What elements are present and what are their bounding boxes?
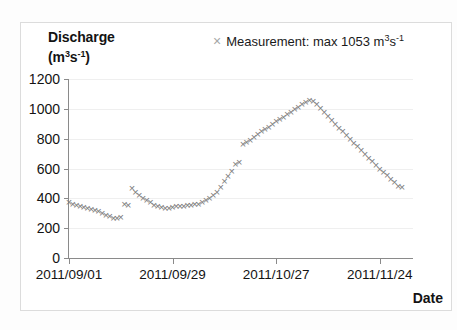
data-point [142, 196, 151, 205]
chart-legend: × Measurement: max 1053 m3s-1 [213, 33, 404, 49]
data-point [172, 202, 181, 211]
data-point [253, 130, 262, 139]
measurement-series [69, 79, 413, 258]
y-axis-unit: (m3s-1) [48, 46, 115, 66]
y-unit-mid: s [70, 49, 78, 65]
data-point [164, 204, 173, 213]
data-point [249, 133, 258, 142]
data-point [216, 183, 225, 192]
data-point [383, 171, 392, 180]
data-point [338, 127, 347, 136]
data-point [168, 203, 177, 212]
data-point [94, 207, 103, 216]
data-point [394, 182, 403, 191]
data-point [150, 201, 159, 210]
data-point [175, 202, 184, 211]
data-point [146, 198, 155, 207]
data-point [116, 213, 125, 222]
data-point [257, 127, 266, 136]
y-axis-tick [64, 109, 69, 110]
x-axis-label: 2011/10/27 [243, 267, 310, 282]
data-point [279, 113, 288, 122]
data-point [286, 108, 295, 117]
y-axis-label: 600 [37, 161, 60, 177]
data-point [327, 116, 336, 125]
chart-figure: Discharge (m3s-1) × Measurement: max 105… [20, 22, 452, 311]
data-point [305, 96, 314, 105]
y-axis-label: 1000 [29, 101, 60, 117]
data-point [209, 191, 218, 200]
y-axis-tick [64, 169, 69, 170]
data-point [183, 201, 192, 210]
data-point [90, 206, 99, 215]
data-point [76, 202, 85, 211]
data-point [79, 203, 88, 212]
data-point [275, 115, 284, 124]
data-point [135, 191, 144, 200]
x-axis-label: 2011/09/29 [139, 267, 206, 282]
x-axis-tick [173, 258, 174, 264]
data-point [312, 100, 321, 109]
data-point [87, 205, 96, 214]
data-point [390, 178, 399, 187]
data-point [161, 204, 170, 213]
y-axis-title: Discharge (m3s-1) [48, 29, 115, 66]
data-point [364, 154, 373, 163]
x-axis-tick [380, 258, 381, 264]
data-point [194, 200, 203, 209]
y-axis-title-name: Discharge [48, 29, 115, 45]
data-point [157, 203, 166, 212]
data-point [264, 123, 273, 132]
data-point [294, 103, 303, 112]
plot-area: 0200400600800100012002011/09/012011/09/2… [68, 79, 413, 259]
data-point [397, 183, 406, 192]
legend-text-sup2: -1 [396, 33, 404, 43]
data-point [242, 138, 251, 147]
x-axis-tick [276, 258, 277, 264]
data-point [231, 160, 240, 169]
data-point [224, 172, 233, 181]
data-point [235, 158, 244, 167]
data-point [290, 105, 299, 114]
data-point [357, 146, 366, 155]
data-point [153, 202, 162, 211]
data-point [227, 167, 236, 176]
data-point [261, 125, 270, 134]
y-axis-tick [64, 139, 69, 140]
data-point [124, 201, 133, 210]
data-point [375, 165, 384, 174]
data-point [101, 211, 110, 220]
y-axis-tick [64, 228, 69, 229]
y-axis-label: 800 [37, 131, 60, 147]
data-point [268, 120, 277, 129]
data-point [198, 198, 207, 207]
data-point [205, 194, 214, 203]
y-unit-suffix: ) [85, 49, 90, 65]
data-point [109, 214, 118, 223]
data-point [323, 112, 332, 121]
data-point [379, 168, 388, 177]
data-point [105, 212, 114, 221]
data-point [131, 188, 140, 197]
data-point [246, 136, 255, 145]
data-point [187, 201, 196, 210]
data-point [138, 194, 147, 203]
data-point [368, 157, 377, 166]
x-axis-title: Date [413, 290, 443, 306]
data-point [360, 150, 369, 159]
data-point [335, 124, 344, 133]
data-point [346, 135, 355, 144]
data-point [113, 214, 122, 223]
data-point [320, 108, 329, 117]
legend-label: Measurement: max 1053 m3s-1 [226, 33, 404, 49]
data-point [349, 139, 358, 148]
data-point [65, 198, 74, 207]
data-point [309, 97, 318, 106]
data-point [301, 98, 310, 107]
data-point [272, 117, 281, 126]
legend-text-prefix: Measurement: max 1053 m [226, 34, 384, 49]
x-axis-tick [69, 258, 70, 264]
y-axis-label: 0 [52, 250, 60, 266]
legend-marker-icon: × [213, 34, 221, 48]
data-point [120, 200, 129, 209]
